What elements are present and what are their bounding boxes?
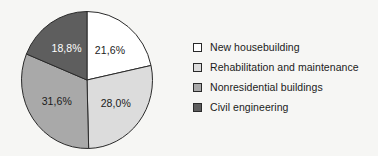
pie-slice-value-label: 21,6% xyxy=(95,44,125,56)
pie-slice-value-label: 31,6% xyxy=(42,95,72,107)
legend-color-swatch xyxy=(193,83,202,92)
pie-chart-svg: 21,6%28,0%31,6%18,8% xyxy=(21,11,153,149)
legend-item[interactable]: Nonresidential buildings xyxy=(193,78,375,97)
legend-item-label: Nonresidential buildings xyxy=(210,82,323,93)
legend-item-label: Civil engineering xyxy=(210,102,288,113)
legend-item[interactable]: Civil engineering xyxy=(193,98,375,117)
legend-item[interactable]: Rehabilitation and maintenance xyxy=(193,58,375,77)
legend-color-swatch xyxy=(193,43,202,52)
pie-slice-value-label: 28,0% xyxy=(101,97,131,109)
legend-color-swatch xyxy=(193,103,202,112)
pie-slice-group xyxy=(22,12,153,149)
legend-item-label: New housebuilding xyxy=(210,42,300,53)
pie-chart-figure: 21,6%28,0%31,6%18,8% New housebuildingRe… xyxy=(0,0,378,156)
legend-color-swatch xyxy=(193,63,202,72)
pie-slice-value-label: 18,8% xyxy=(51,42,81,54)
legend-item-label: Rehabilitation and maintenance xyxy=(210,62,359,73)
pie-chart: 21,6%28,0%31,6%18,8% xyxy=(21,11,153,149)
legend-item[interactable]: New housebuilding xyxy=(193,38,375,57)
chart-legend: New housebuildingRehabilitation and main… xyxy=(193,38,375,118)
